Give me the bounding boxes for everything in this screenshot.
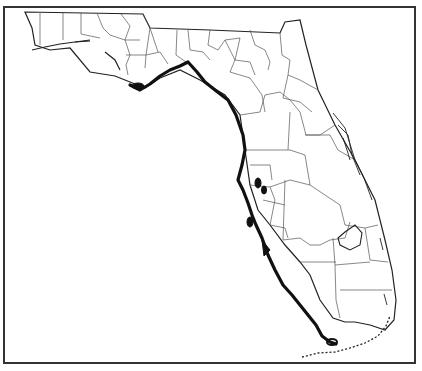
range-detail [132, 83, 337, 345]
county-lines [40, 13, 392, 318]
lake-okeechobee [338, 225, 362, 250]
florida-map [0, 0, 422, 371]
state-outline [25, 12, 396, 330]
gulf-coast-range-line [130, 62, 336, 344]
